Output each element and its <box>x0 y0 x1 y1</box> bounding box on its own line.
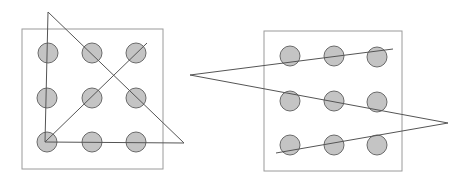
zigzag-solution-path <box>190 49 448 153</box>
dot <box>82 43 102 63</box>
dot <box>367 92 387 112</box>
dot <box>324 91 344 111</box>
dot <box>37 88 57 108</box>
dot <box>38 43 58 63</box>
dot <box>82 88 102 108</box>
dot <box>126 132 146 152</box>
dot <box>324 135 344 155</box>
dot <box>126 88 146 108</box>
dot <box>367 135 387 155</box>
nine-dots-diagram <box>0 0 468 183</box>
